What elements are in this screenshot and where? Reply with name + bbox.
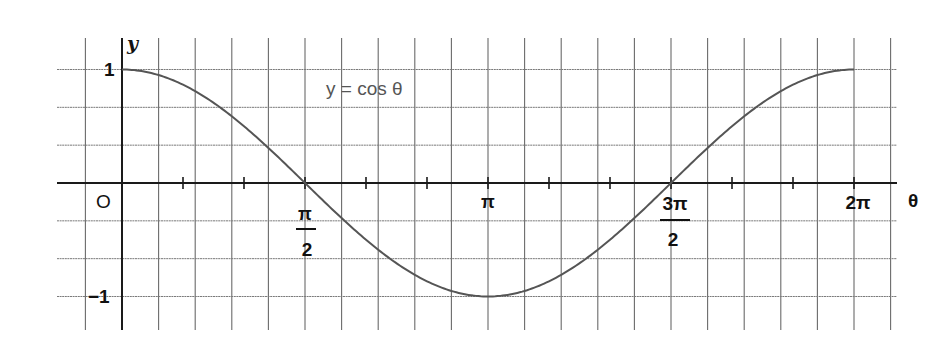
- y-tick-label-1: 1: [104, 59, 115, 80]
- x-tick-label-two-pi: 2π: [845, 192, 871, 213]
- y-axis-label: y: [126, 32, 140, 54]
- x-tick-label-three-half-pi: 3π 2: [660, 193, 690, 250]
- x-axis-label: θ: [908, 190, 918, 211]
- y-tick-label-minus-1: −1: [88, 286, 110, 307]
- half-pi-numerator: π: [298, 204, 312, 224]
- three-half-pi-numerator: 3π: [662, 193, 688, 214]
- half-pi-denominator: 2: [302, 239, 313, 260]
- x-tick-label-half-pi: π 2: [296, 204, 316, 260]
- three-half-pi-denominator: 2: [668, 229, 679, 250]
- curve-label: y = cos θ: [326, 78, 403, 99]
- cosine-chart: y θ O 1 −1 π 2 π 3π 2 2π y = cos θ: [0, 0, 941, 350]
- x-tick-label-pi: π: [481, 192, 495, 212]
- origin-label: O: [96, 191, 111, 212]
